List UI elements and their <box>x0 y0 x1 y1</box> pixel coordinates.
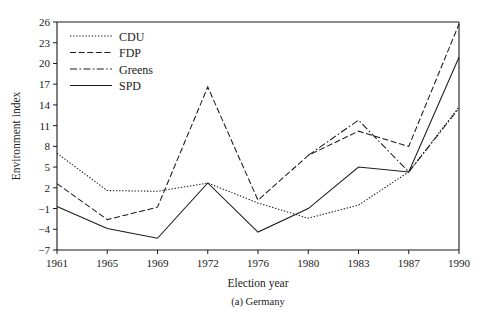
legend-label-spd: SPD <box>119 79 141 93</box>
x-tick-label: 1980 <box>297 257 320 269</box>
x-tick-label: 1972 <box>197 257 219 269</box>
figure-caption: (a) Germany <box>231 296 285 308</box>
y-tick-label: 5 <box>45 161 51 173</box>
x-tick-label: 1983 <box>348 257 371 269</box>
y-tick-label: 2 <box>45 182 51 194</box>
axis-spines <box>57 22 459 250</box>
y-tick-label: −4 <box>38 223 50 235</box>
x-tick-label: 1976 <box>247 257 270 269</box>
y-axis-title: Environment index <box>10 92 22 181</box>
y-tick-label: −7 <box>38 244 50 256</box>
x-tick-label: 1969 <box>147 257 170 269</box>
legend-label-greens: Greens <box>119 63 153 77</box>
axis-label-layer: Environment indexElection year(a) German… <box>10 92 289 308</box>
series-line-greens <box>308 108 459 172</box>
series-line-cdu <box>57 107 459 218</box>
y-tick-label: 20 <box>39 57 51 69</box>
legend-label-fdp: FDP <box>119 46 141 60</box>
series-line-spd <box>57 57 459 238</box>
y-tick-label: 11 <box>39 120 50 132</box>
y-tick-label: 17 <box>39 78 51 90</box>
y-tick-label: −1 <box>38 203 50 215</box>
figure-container: −7−4−12581114172023261961196519691972197… <box>0 0 483 313</box>
y-tick-label: 8 <box>45 140 51 152</box>
axis-layer: −7−4−12581114172023261961196519691972197… <box>38 16 470 269</box>
x-tick-label: 1961 <box>46 257 68 269</box>
series-layer <box>57 24 459 238</box>
x-tick-label: 1965 <box>96 257 119 269</box>
y-tick-label: 23 <box>39 37 51 49</box>
x-tick-label: 1987 <box>398 257 421 269</box>
line-chart: −7−4−12581114172023261961196519691972197… <box>0 0 483 313</box>
x-axis-title: Election year <box>228 277 289 290</box>
x-tick-label: 1990 <box>448 257 471 269</box>
y-tick-label: 26 <box>39 16 51 28</box>
chart-legend: CDUFDPGreensSPD <box>70 30 153 94</box>
legend-label-cdu: CDU <box>119 30 145 44</box>
y-tick-label: 14 <box>39 99 51 111</box>
